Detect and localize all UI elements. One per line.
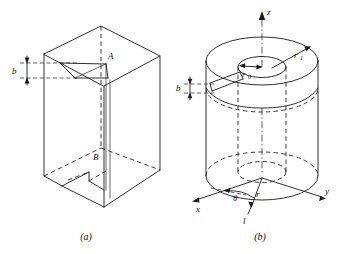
r0-arrowhead-right: [256, 64, 262, 69]
dim-b-arrowhead-up-a: [25, 78, 30, 84]
slit-bottom-hidden-edge: [89, 171, 106, 181]
r-label: r: [256, 189, 260, 199]
caption-a: (a): [80, 231, 92, 243]
y-axis-arrowhead: [319, 196, 326, 201]
dim-b-arrowhead-up-b: [188, 93, 193, 99]
dim-b-label-b: b: [176, 83, 181, 93]
theta-arc: [226, 191, 254, 198]
point-b-label: B: [93, 152, 99, 162]
z-axis-label: z: [266, 7, 271, 17]
slit-bottom-hidden-edge2: [68, 172, 89, 180]
x-axis-label: x: [195, 204, 200, 214]
technical-figure-svg: b A B (a): [0, 0, 343, 254]
z-axis-arrowhead: [259, 11, 265, 20]
dim-b-arrowhead-down-a: [25, 58, 30, 64]
cylinder-bottom-front-arc: [206, 176, 318, 200]
l-line: [248, 205, 252, 214]
r1-label: r: [294, 50, 298, 60]
block-top-face: [44, 26, 160, 86]
slit-top-inner-edge: [60, 63, 75, 78]
panel-b-cylinder: b z r 0 r 1 x y r l: [176, 7, 329, 243]
r0-arrowhead-left: [239, 63, 245, 68]
y-axis-label: y: [324, 186, 329, 196]
theta-label: θ: [233, 193, 238, 203]
l-label: l: [243, 216, 246, 226]
block-bottom-front-right: [104, 170, 160, 207]
block-bottom-front-left: [44, 176, 62, 186]
r0-label-subscript: 0: [248, 74, 251, 80]
y-axis-line: [262, 178, 322, 197]
r1-label-subscript: 1: [300, 55, 303, 61]
dim-b-arrowhead-down-b: [188, 79, 193, 85]
point-a-label: A: [107, 51, 114, 61]
block-bottom-notch-left: [62, 172, 89, 186]
caption-b: (b): [254, 231, 266, 243]
figure-container: b A B (a): [0, 0, 343, 254]
block-bottom-front-edge: [62, 186, 104, 207]
block-bottom-notch-right: [89, 181, 104, 190]
x-axis-arrowhead: [192, 197, 200, 202]
panel-a-block: b A B (a): [12, 26, 160, 243]
dim-b-label-a: b: [12, 66, 17, 76]
r0-label: r: [242, 69, 246, 79]
